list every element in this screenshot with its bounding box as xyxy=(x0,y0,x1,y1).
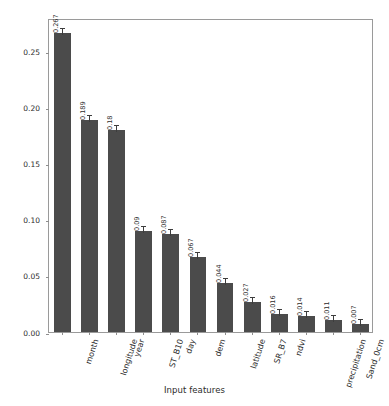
y-tick-mark xyxy=(46,109,49,110)
feature-importance-bar-chart: Feature scores (0-1) 0.000.050.100.150.2… xyxy=(0,0,389,406)
y-tick-label: 0.25 xyxy=(23,48,40,57)
error-bar-cap xyxy=(277,309,282,310)
bar xyxy=(81,120,98,332)
bar-value-label: 0.014 xyxy=(297,298,304,317)
bar-value-label: 0.087 xyxy=(161,216,168,235)
error-bar xyxy=(89,115,90,122)
x-tick-label: latitude xyxy=(249,338,267,370)
x-tick-mark xyxy=(170,332,171,335)
x-tick-label: Sand_0cm xyxy=(365,338,386,380)
error-bar-cap xyxy=(358,319,363,320)
error-bar xyxy=(360,319,361,326)
plot-area: 0.000.050.100.150.200.250.2670.1890.180.… xyxy=(48,19,373,333)
error-bar xyxy=(306,311,307,318)
x-tick-mark xyxy=(143,332,144,335)
error-bar-cap xyxy=(87,115,92,116)
x-tick-label: month xyxy=(83,338,100,365)
x-tick-label: day xyxy=(184,338,197,355)
error-bar xyxy=(252,297,253,304)
error-bar-cap xyxy=(60,28,65,29)
y-tick-mark xyxy=(46,277,49,278)
y-tick-label: 0.00 xyxy=(23,329,40,338)
bar xyxy=(190,257,207,332)
y-tick-mark xyxy=(46,334,49,335)
x-tick-mark xyxy=(360,332,361,335)
x-axis-title: Input features xyxy=(0,385,389,395)
error-bar xyxy=(62,28,63,35)
y-tick-label: 0.10 xyxy=(23,216,40,225)
y-tick-label: 0.15 xyxy=(23,160,40,169)
error-bar xyxy=(143,226,144,233)
x-tick-mark xyxy=(197,332,198,335)
error-bar-cap xyxy=(114,125,119,126)
bar-value-label: 0.189 xyxy=(80,101,87,120)
error-bar xyxy=(333,315,334,322)
x-tick-mark xyxy=(333,332,334,335)
bar xyxy=(162,234,179,332)
y-tick-mark xyxy=(46,165,49,166)
x-tick-mark xyxy=(89,332,90,335)
bar xyxy=(217,283,234,332)
y-tick-mark xyxy=(46,221,49,222)
x-tick-mark xyxy=(62,332,63,335)
error-bar-cap xyxy=(304,311,309,312)
y-tick-mark xyxy=(46,53,49,54)
bar-value-label: 0.027 xyxy=(243,283,250,302)
bar-value-label: 0.18 xyxy=(107,116,114,130)
error-bar-cap xyxy=(141,226,146,227)
bar xyxy=(271,314,288,332)
bar xyxy=(135,231,152,332)
x-tick-mark xyxy=(116,332,117,335)
bar-value-label: 0.007 xyxy=(351,306,358,325)
bar-value-label: 0.016 xyxy=(270,295,277,314)
x-tick-label: precipitation xyxy=(344,338,368,389)
error-bar-cap xyxy=(168,229,173,230)
bar-value-label: 0.044 xyxy=(216,264,223,283)
error-bar-cap xyxy=(223,278,228,279)
error-bar-cap xyxy=(250,297,255,298)
error-bar xyxy=(197,252,198,259)
error-bar-cap xyxy=(331,315,336,316)
error-bar xyxy=(279,309,280,316)
x-tick-label: SR_B7 xyxy=(273,338,289,365)
x-tick-mark xyxy=(279,332,280,335)
error-bar xyxy=(225,278,226,285)
error-bar xyxy=(116,125,117,132)
bar xyxy=(298,316,315,332)
bar-value-label: 0.09 xyxy=(134,217,141,231)
bar xyxy=(108,130,125,332)
x-tick-mark xyxy=(225,332,226,335)
x-tick-label: dem xyxy=(213,338,227,358)
y-tick-label: 0.05 xyxy=(23,272,40,281)
x-tick-label: ndvi xyxy=(294,338,308,357)
bar xyxy=(244,302,261,332)
x-tick-label: ST_B10 xyxy=(167,338,185,369)
bar xyxy=(54,33,71,332)
x-tick-mark xyxy=(306,332,307,335)
bar-value-label: 0.267 xyxy=(53,14,60,33)
error-bar-cap xyxy=(195,252,200,253)
bar-value-label: 0.067 xyxy=(188,238,195,257)
x-tick-mark xyxy=(252,332,253,335)
bar-value-label: 0.011 xyxy=(324,301,331,320)
y-tick-label: 0.20 xyxy=(23,104,40,113)
error-bar xyxy=(170,229,171,236)
